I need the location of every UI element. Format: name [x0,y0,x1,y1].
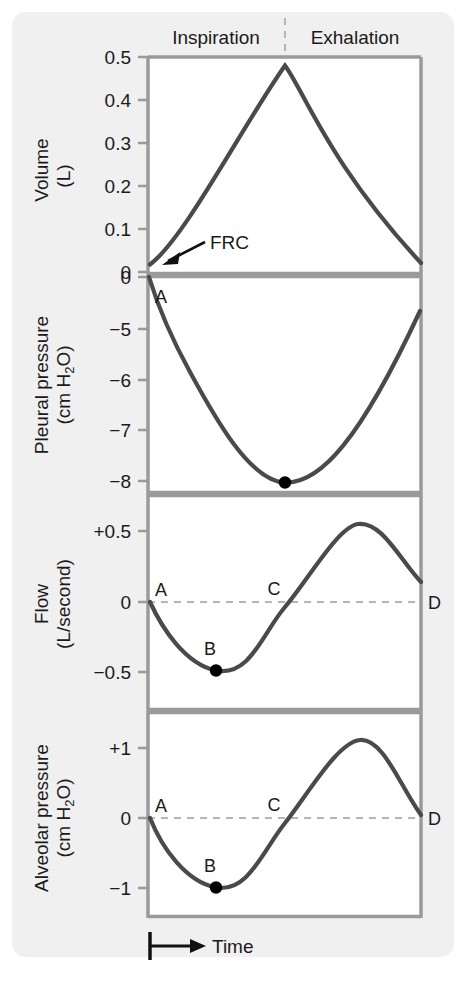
ytick-volume-2: 0.2 [105,176,131,197]
marker-alveolar-b [210,881,222,893]
panel-volume: 0.5 0.4 0.3 0.2 0.1 0 Volume (L) FRC [31,47,421,283]
ytick-pleural-3: −7 [109,420,131,441]
panel-flow: +0.5 0 −0.5 Flow (L/second) A B C D [31,494,441,711]
ylabel-alveolar: Alveolar pressure [31,744,52,892]
phase-label-inspiration: Inspiration [172,27,260,48]
ytick-alveolar-1: 0 [120,808,131,829]
panel-pleural-pressure: 0 −5 −6 −7 −8 Pleural pressure (cm H2O) … [31,267,421,494]
point-label-flow-b: B [204,639,216,659]
phase-label-exhalation: Exhalation [311,27,400,48]
time-axis-label: Time [212,936,254,957]
ylabel-pleural-units: (cm H2O) [53,346,77,425]
marker-flow-b [210,664,222,676]
ytick-volume-3: 0.3 [105,133,131,154]
time-axis: Time [150,932,254,960]
point-label-alveolar-c: C [268,795,281,815]
figure-svg: Inspiration Exhalation 0.5 0.4 0.3 [0,0,466,984]
ytick-alveolar-0: +1 [109,738,131,759]
respiratory-cycle-figure: Inspiration Exhalation 0.5 0.4 0.3 [0,0,466,984]
ylabel-flow-units: (L/second) [53,559,74,649]
marker-pleural-minimum [279,476,291,488]
ytick-alveolar-2: −1 [109,878,131,899]
plot-area-alveolar [148,711,421,918]
point-label-flow-a: A [155,580,167,600]
ylabel-volume: Volume [31,138,52,201]
time-arrowhead-icon [190,939,206,953]
ylabel-flow: Flow [31,584,52,624]
ytick-pleural-1: −5 [109,319,131,340]
ytick-volume-5: 0.5 [105,47,131,68]
ytick-flow-0: +0.5 [93,521,131,542]
plot-area-pleural [148,275,421,494]
ytick-flow-2: −0.5 [93,662,131,683]
ytick-volume-1: 0.1 [105,219,131,240]
point-label-alveolar-b: B [204,856,216,876]
ylabel-alveolar-units: (cm H2O) [53,779,77,858]
ytick-pleural-4: −8 [109,471,131,492]
panel-alveolar-pressure: +1 0 −1 Alveolar pressure (cm H2O) A B C… [31,711,441,918]
point-label-alveolar-d: D [428,809,441,829]
frc-label: FRC [210,232,249,253]
ylabel-volume-units: (L) [53,164,74,187]
point-label-flow-d: D [428,593,441,613]
ytick-volume-4: 0.4 [105,90,132,111]
point-label-pleural-a: A [155,287,167,307]
ytick-pleural-2: −6 [109,370,131,391]
point-label-flow-c: C [268,579,281,599]
plot-area-volume [148,57,421,275]
point-label-alveolar-a: A [155,796,167,816]
ylabel-pleural: Pleural pressure [31,316,52,454]
ytick-pleural-0: 0 [120,267,131,288]
ytick-flow-1: 0 [120,592,131,613]
